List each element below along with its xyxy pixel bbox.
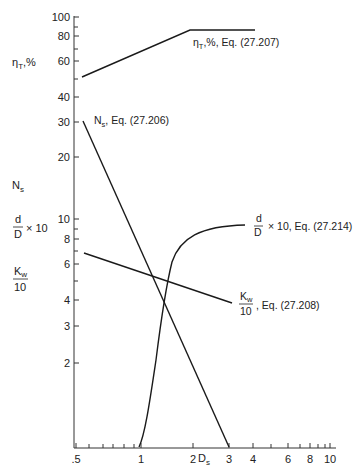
y-tick-label: 6 <box>64 258 70 270</box>
annotation-kw: Kw 10 , Eq. (27.208) <box>239 290 320 317</box>
y-tick-label: 4 <box>64 294 70 306</box>
y-tick-label: 60 <box>58 55 70 67</box>
series-ns-line <box>83 121 229 447</box>
y-tick-label: 10 <box>58 213 70 225</box>
svg-text:Kw: Kw <box>14 265 27 279</box>
y-tick-label: 80 <box>58 30 70 42</box>
svg-text:d: d <box>256 212 262 224</box>
y-tick-label: 30 <box>58 116 70 128</box>
y-tick-label: 2 <box>64 357 70 369</box>
y-tick-label: 20 <box>58 151 70 163</box>
x-tick-label: 4 <box>250 453 256 465</box>
svg-text:, Eq. (27.208): , Eq. (27.208) <box>256 299 320 311</box>
series-dD-curve <box>139 225 245 447</box>
x-tick-label: 10 <box>324 453 336 465</box>
x-tick-label: .5 <box>71 453 80 465</box>
svg-text:10: 10 <box>14 281 26 293</box>
svg-text:× 10, Eq. (27.214): × 10, Eq. (27.214) <box>268 220 352 232</box>
svg-text:D: D <box>254 226 262 238</box>
y-ticks: 10080604030201086432 <box>52 11 79 369</box>
svg-text:× 10: × 10 <box>26 222 48 234</box>
x-tick-label: 3 <box>226 453 232 465</box>
series-kw-line <box>84 253 232 303</box>
y-tick-label: 100 <box>52 11 70 23</box>
x-tick-label: 2 <box>190 453 196 465</box>
svg-text:d: d <box>15 213 21 225</box>
svg-text:D: D <box>14 228 22 240</box>
annotation-eta: ηT,%, Eq. (27.207) <box>193 36 279 51</box>
x-tick-label: 6 <box>285 453 291 465</box>
y-axis: 10080604030201086432 <box>52 11 79 448</box>
ns-axis-label: Ns <box>12 179 24 194</box>
y-tick-label: 3 <box>64 320 70 332</box>
dD-axis-label: d D × 10 <box>13 213 48 240</box>
y-tick-label: 40 <box>58 91 70 103</box>
kw-axis-label: Kw 10 <box>13 265 28 293</box>
x-axis-label: Ds <box>198 452 210 467</box>
annotation-ns: Ns, Eq. (27.206) <box>94 114 169 129</box>
annotation-dD: d D × 10, Eq. (27.214) <box>254 212 352 238</box>
eta-axis-label: ηT,% <box>12 56 36 71</box>
svg-text:10: 10 <box>240 305 252 317</box>
y-tick-label: 8 <box>64 233 70 245</box>
svg-text:Kw: Kw <box>240 290 253 304</box>
chart-svg: 10080604030201086432 .512346810 ηT,% Ns … <box>0 0 360 471</box>
x-tick-label: 8 <box>307 453 313 465</box>
x-tick-label: 1 <box>138 453 144 465</box>
chart: 10080604030201086432 .512346810 ηT,% Ns … <box>0 0 360 471</box>
